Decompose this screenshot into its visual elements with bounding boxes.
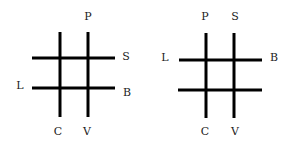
left-label-c: C bbox=[54, 125, 62, 138]
right-label-v: V bbox=[230, 125, 240, 138]
left-label-v: V bbox=[82, 125, 92, 138]
left-label-s: S bbox=[122, 50, 130, 63]
right-label-l: L bbox=[161, 51, 169, 64]
left-label-b: B bbox=[123, 86, 131, 99]
right-grid: P S L B C V bbox=[161, 10, 278, 138]
tic-tac-toe-grid-diagrams: P S L B C V P S L B C V bbox=[0, 0, 288, 144]
right-label-c: C bbox=[201, 125, 209, 138]
right-label-p: P bbox=[201, 10, 209, 23]
left-label-p: P bbox=[84, 10, 92, 23]
right-label-s: S bbox=[231, 10, 239, 23]
left-grid: P S L B C V bbox=[16, 10, 131, 138]
left-label-l: L bbox=[16, 79, 24, 92]
right-label-b: B bbox=[270, 51, 278, 64]
